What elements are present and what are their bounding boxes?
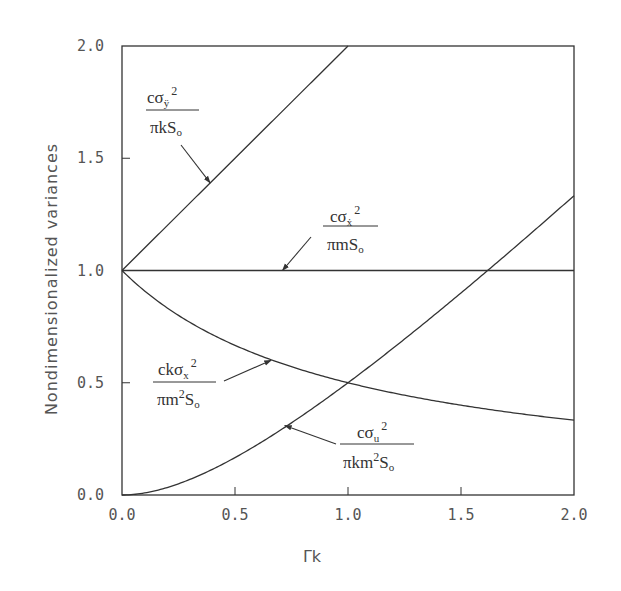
annotation-arrow — [285, 425, 336, 444]
x-tick-label: 0.0 — [108, 506, 135, 524]
svg-text:cσÿ2: cσÿ2 — [147, 84, 177, 109]
variance-chart: 0.00.51.01.52.00.00.51.01.52.0 Nondimens… — [0, 0, 621, 591]
legend-label-u: cσu2 πkm2So — [340, 419, 414, 473]
svg-text:πkSo: πkSo — [150, 118, 183, 138]
x-tick-label: 1.5 — [447, 506, 474, 524]
svg-text:cσẋ2: cσẋ2 — [330, 203, 360, 228]
y-tick-label: 1.0 — [77, 262, 104, 280]
legend-label-xdot: cσẋ2 πmSo — [323, 203, 378, 255]
x-tick-label: 1.0 — [334, 506, 361, 524]
y-tick-label: 0.5 — [77, 374, 104, 392]
data-curves — [122, 46, 574, 495]
y-tick-label: 1.5 — [77, 149, 104, 167]
y-tick-label: 0.0 — [77, 486, 104, 504]
x-axis-label: Γk — [303, 547, 322, 566]
annotation-arrow — [224, 360, 271, 381]
x-tick-label: 2.0 — [560, 506, 587, 524]
legend-label-x: ckσx2 πm2So — [153, 356, 216, 410]
y-tick-label: 2.0 — [77, 37, 104, 55]
legend-label-yddot: cσÿ2 πkSo — [146, 84, 199, 138]
svg-text:cσu2: cσu2 — [357, 419, 387, 444]
svg-text:πmSo: πmSo — [327, 235, 364, 255]
annotation-arrows — [181, 145, 336, 444]
annotation-arrow — [181, 145, 210, 183]
svg-text:πkm2So: πkm2So — [343, 450, 395, 473]
annotation-arrow — [282, 237, 311, 271]
curve-series-0 — [122, 46, 348, 271]
x-tick-label: 0.5 — [221, 506, 248, 524]
svg-text:πm2So: πm2So — [157, 387, 200, 410]
y-axis-label: Nondimensionalized variances — [42, 143, 61, 415]
svg-text:ckσx2: ckσx2 — [158, 356, 197, 381]
